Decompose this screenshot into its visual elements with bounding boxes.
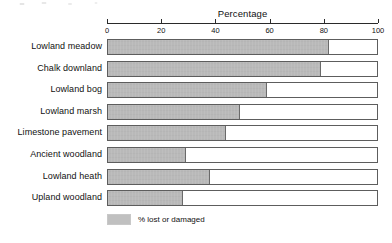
bar-fill-lost-or-damaged <box>108 62 321 76</box>
bar-row: Limestone pavement <box>0 124 392 146</box>
bar-fill-lost-or-damaged <box>108 105 240 119</box>
x-axis-tick <box>107 19 108 23</box>
bar-track <box>107 190 378 206</box>
bar-row-label: Upland woodland <box>0 192 102 202</box>
x-axis-tick-label: 80 <box>320 26 328 35</box>
bar-rows: Lowland meadowChalk downlandLowland bogL… <box>0 38 392 211</box>
x-axis-tick <box>324 19 325 23</box>
bar-track <box>107 104 378 120</box>
x-axis-tick-label: 40 <box>211 26 219 35</box>
chart-legend: % lost or damaged <box>107 214 205 225</box>
bar-row: Chalk downland <box>0 60 392 82</box>
bar-row-label: Chalk downland <box>0 63 102 73</box>
bar-track <box>107 169 378 185</box>
x-axis-tick <box>215 19 216 23</box>
x-axis-tick-label: 60 <box>265 26 273 35</box>
bar-row: Ancient woodland <box>0 146 392 168</box>
x-axis-tick-label: 0 <box>105 26 109 35</box>
x-axis-tick <box>161 19 162 23</box>
bar-track <box>107 147 378 163</box>
axis-title: Percentage <box>107 8 378 19</box>
x-axis-tick <box>270 19 271 23</box>
bar-row-label: Ancient woodland <box>0 149 102 159</box>
bar-row: Upland woodland <box>0 189 392 211</box>
bar-track <box>107 82 378 98</box>
x-axis-tick-label: 100 <box>372 26 385 35</box>
x-axis-tick <box>378 19 379 23</box>
bar-row-label: Lowland bog <box>0 84 102 94</box>
bar-row-label: Limestone pavement <box>0 127 102 137</box>
bar-row-label: Lowland marsh <box>0 106 102 116</box>
bar-row-label: Lowland heath <box>0 171 102 181</box>
legend-swatch-lost-or-damaged <box>107 214 131 225</box>
bar-row: Lowland heath <box>0 168 392 190</box>
bar-fill-lost-or-damaged <box>108 148 186 162</box>
bar-row: Lowland marsh <box>0 103 392 125</box>
bar-fill-lost-or-damaged <box>108 170 210 184</box>
bar-track <box>107 61 378 77</box>
bar-track <box>107 39 378 55</box>
x-axis-tick-label: 20 <box>157 26 165 35</box>
horizontal-bar-chart: Percentage 020406080100 Lowland meadowCh… <box>0 0 392 243</box>
x-axis-line <box>107 23 378 24</box>
bar-row-label: Lowland meadow <box>0 41 102 51</box>
bar-fill-lost-or-damaged <box>108 83 267 97</box>
bar-fill-lost-or-damaged <box>108 191 183 205</box>
bar-row: Lowland meadow <box>0 38 392 60</box>
legend-label: % lost or damaged <box>138 215 205 224</box>
bar-track <box>107 125 378 141</box>
bar-row: Lowland bog <box>0 81 392 103</box>
bar-fill-lost-or-damaged <box>108 40 329 54</box>
bar-fill-lost-or-damaged <box>108 126 226 140</box>
